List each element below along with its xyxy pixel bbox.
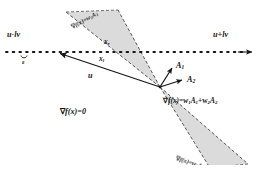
figure-canvas: u-lv u+lv ε xr xl u A1 A2 ∇f(x)=w1A1 ∇f(… — [0, 0, 261, 175]
gradient-combination-equation: ∇f(x)=w1A1+w2A2 — [163, 97, 217, 106]
point-label-xr: xr — [104, 38, 110, 47]
stationary-condition-equation: ∇f(x)=0 — [60, 108, 86, 116]
point-label-xl: xl — [99, 55, 104, 64]
comb-plus: +w — [198, 96, 208, 105]
a1-sub: 1 — [181, 64, 184, 70]
u-vector-label: u — [88, 72, 93, 80]
stat-rest: f(x)=0 — [65, 107, 86, 116]
a2-sub: 2 — [192, 78, 195, 84]
a1-vector-label: A1 — [176, 62, 184, 70]
comb-f: f(x)=w — [168, 96, 188, 105]
figure-bottom-margin — [0, 165, 261, 175]
comb-s4: 2 — [215, 100, 217, 105]
epsilon-label: ε — [22, 59, 25, 65]
axis-right-label: u+lv — [213, 31, 228, 39]
axis-left-label: u-lv — [7, 31, 20, 39]
apex-point — [159, 86, 162, 89]
xl-sub: l — [103, 58, 104, 63]
diagram-vector-layer — [0, 0, 261, 175]
xr-sub: r — [108, 41, 110, 46]
a2-vector-label: A2 — [187, 76, 195, 84]
